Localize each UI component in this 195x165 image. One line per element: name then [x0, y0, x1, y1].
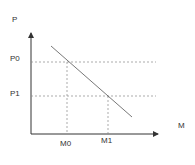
- demand-chart: [0, 0, 195, 165]
- tick-label-p0: P0: [10, 55, 20, 63]
- demand-line: [51, 46, 132, 117]
- tick-label-m0: M0: [60, 140, 71, 148]
- tick-label-p1: P1: [10, 90, 20, 98]
- x-axis-label: M: [178, 122, 185, 130]
- y-axis-label: P: [12, 16, 17, 24]
- tick-label-m1: M1: [101, 137, 112, 145]
